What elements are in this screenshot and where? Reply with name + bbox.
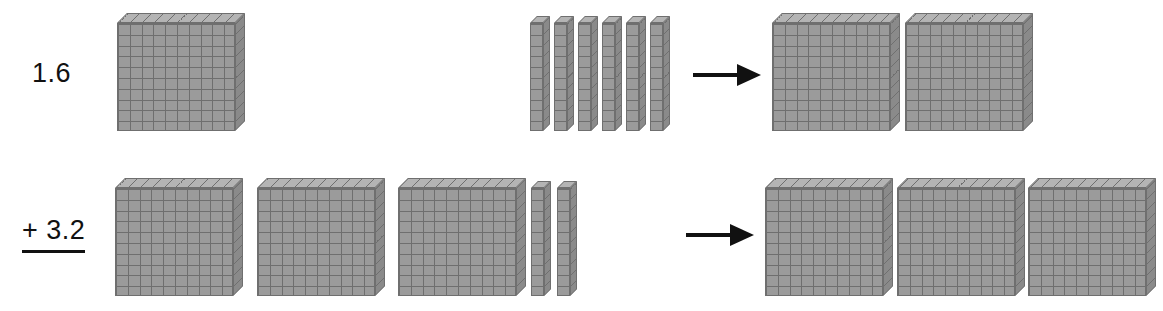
- flat-block: [897, 178, 1025, 296]
- rod-block: [602, 16, 622, 131]
- rod-front-face: [531, 188, 544, 296]
- flat-side-face: [883, 178, 893, 296]
- addend-label-1: 1.6: [32, 58, 71, 89]
- rod-front-face: [530, 23, 543, 131]
- flat-side-face: [375, 178, 385, 296]
- rod-front-face: [554, 23, 567, 131]
- rod-front-face: [578, 23, 591, 131]
- rod-block: [531, 181, 551, 296]
- flat-side-face: [235, 13, 245, 131]
- flat-front-face: [897, 188, 1015, 296]
- flat-side-face: [1023, 13, 1033, 131]
- rod-side-face: [663, 16, 670, 131]
- flat-side-face: [233, 178, 243, 296]
- flat-top-face: [398, 178, 526, 188]
- rod-side-face: [567, 16, 574, 131]
- flat-block: [398, 178, 526, 296]
- flat-block: [905, 13, 1033, 131]
- rod-block: [578, 16, 598, 131]
- rod-block: [626, 16, 646, 131]
- addend-label-2: + 3.2: [22, 215, 85, 253]
- flat-front-face: [257, 188, 375, 296]
- rod-block: [557, 181, 577, 296]
- flat-front-face: [115, 188, 233, 296]
- rod-block: [530, 16, 550, 131]
- rod-side-face: [544, 181, 551, 296]
- flat-front-face: [772, 23, 890, 131]
- flat-top-face: [772, 13, 900, 23]
- flat-side-face: [890, 13, 900, 131]
- flat-top-face: [765, 178, 893, 188]
- right-arrow-icon-row1: [693, 62, 761, 88]
- flat-front-face: [117, 23, 235, 131]
- flat-block: [1028, 178, 1156, 296]
- flat-front-face: [905, 23, 1023, 131]
- rod-front-face: [557, 188, 570, 296]
- flat-top-face: [257, 178, 385, 188]
- rod-front-face: [650, 23, 663, 131]
- flat-front-face: [765, 188, 883, 296]
- rod-front-face: [626, 23, 639, 131]
- flat-block: [257, 178, 385, 296]
- flat-top-face: [117, 13, 245, 23]
- flat-top-face: [905, 13, 1033, 23]
- flat-top-face: [115, 178, 243, 188]
- flat-front-face: [398, 188, 516, 296]
- rod-side-face: [639, 16, 646, 131]
- rod-side-face: [543, 16, 550, 131]
- flat-block: [765, 178, 893, 296]
- rod-front-face: [602, 23, 615, 131]
- flat-top-face: [1028, 178, 1156, 188]
- flat-side-face: [1146, 178, 1156, 296]
- rod-block: [650, 16, 670, 131]
- rod-block: [554, 16, 574, 131]
- right-arrow-icon-row2: [686, 222, 754, 248]
- flat-front-face: [1028, 188, 1146, 296]
- flat-side-face: [1015, 178, 1025, 296]
- flat-side-face: [516, 178, 526, 296]
- rod-side-face: [591, 16, 598, 131]
- flat-top-face: [897, 178, 1025, 188]
- base-ten-block-diagram: 1.6 + 3.2: [0, 0, 1163, 311]
- flat-block: [117, 13, 245, 131]
- rod-side-face: [615, 16, 622, 131]
- flat-block: [772, 13, 900, 131]
- rod-side-face: [570, 181, 577, 296]
- flat-block: [115, 178, 243, 296]
